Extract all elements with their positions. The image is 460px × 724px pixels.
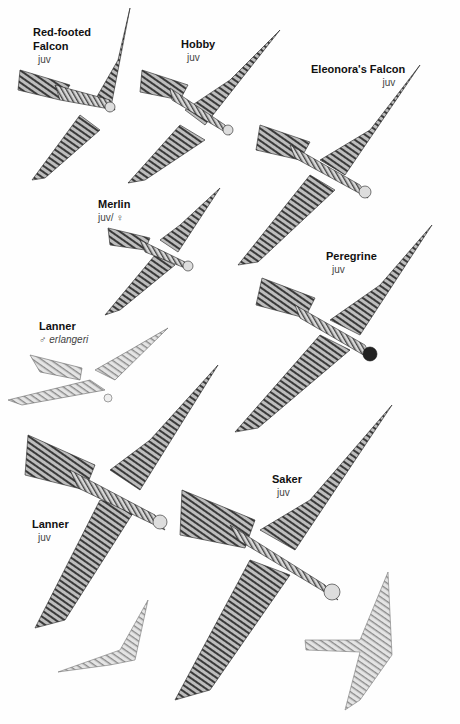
field-guide-plate: Red-footed Falcon juv Hobby juv Eleonora… — [0, 0, 460, 724]
species-name: Merlin — [98, 198, 130, 212]
label-lanner-juv: Lanner juv — [32, 518, 69, 544]
label-eleonoras-falcon: Eleonora's Falcon juv — [311, 63, 405, 89]
label-hobby: Hobby juv — [181, 38, 215, 64]
bird-eleonoras-falcon — [238, 65, 420, 265]
label-saker: Saker juv — [272, 473, 302, 499]
bird-small-silhouette-left — [58, 600, 148, 672]
species-name: Falcon — [33, 40, 91, 54]
age-label: juv — [33, 54, 91, 67]
age-label: juv — [32, 532, 69, 545]
species-name: Eleonora's Falcon — [311, 63, 405, 77]
label-red-footed-falcon: Red-footed Falcon juv — [33, 26, 91, 66]
species-name: Lanner — [32, 518, 69, 532]
age-label: juv — [181, 52, 215, 65]
age-label: juv — [326, 264, 377, 277]
label-merlin: Merlin juv/ ♀ — [98, 198, 130, 224]
label-lanner-erlangeri: Lanner ♂ erlangeri — [39, 320, 88, 346]
bird-small-silhouette-right — [305, 572, 392, 710]
species-name: Saker — [272, 473, 302, 487]
age-label: juv — [311, 77, 405, 90]
species-name: Red-footed — [33, 26, 91, 40]
species-name: Hobby — [181, 38, 215, 52]
species-name: Peregrine — [326, 250, 377, 264]
falcon-illustrations — [0, 0, 460, 724]
label-peregrine: Peregrine juv — [326, 250, 377, 276]
species-name: Lanner — [39, 320, 88, 334]
age-label: ♂ erlangeri — [39, 334, 88, 347]
age-label: juv — [272, 487, 302, 500]
age-label: juv/ ♀ — [98, 212, 130, 225]
